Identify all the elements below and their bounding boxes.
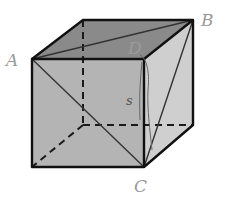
label-C: C — [134, 176, 147, 196]
label-D: D — [127, 38, 142, 58]
label-s: s — [126, 93, 133, 108]
label-A: A — [4, 50, 18, 70]
cube-diagram: A B C D s — [0, 0, 230, 197]
label-B: B — [200, 10, 214, 30]
